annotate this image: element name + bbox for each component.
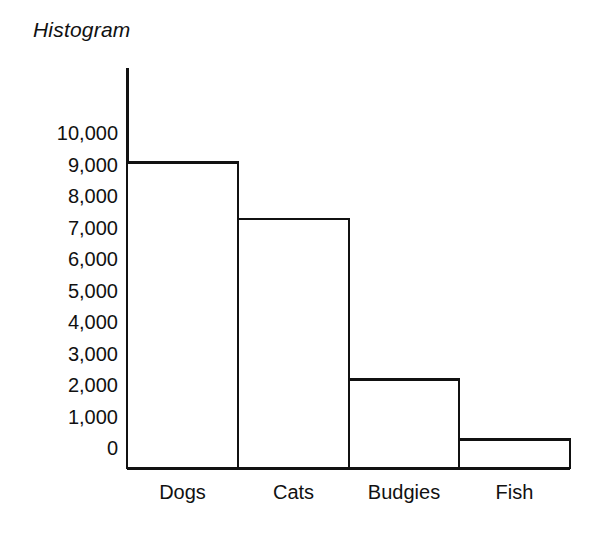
x-category-label-cats: Cats <box>238 481 349 503</box>
x-category-label-fish: Fish <box>459 481 570 503</box>
x-category-label-budgies: Budgies <box>349 481 459 503</box>
x-category-label-dogs: Dogs <box>127 481 238 503</box>
histogram-chart: Histogram 10,0009,0008,0007,0006,0005,00… <box>0 0 599 537</box>
x-axis-category-labels: DogsCatsBudgiesFish <box>0 0 599 537</box>
